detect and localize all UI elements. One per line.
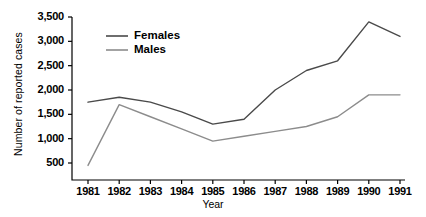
axis-lines: [68, 17, 405, 184]
legend-swatches: [106, 36, 128, 50]
series-line-males: [88, 95, 400, 166]
legend-label-males: Males: [134, 43, 166, 55]
plot-area: [0, 0, 426, 217]
line-chart: Number of reported cases Year 5001,0001,…: [0, 0, 426, 217]
legend-label-females: Females: [134, 29, 180, 41]
